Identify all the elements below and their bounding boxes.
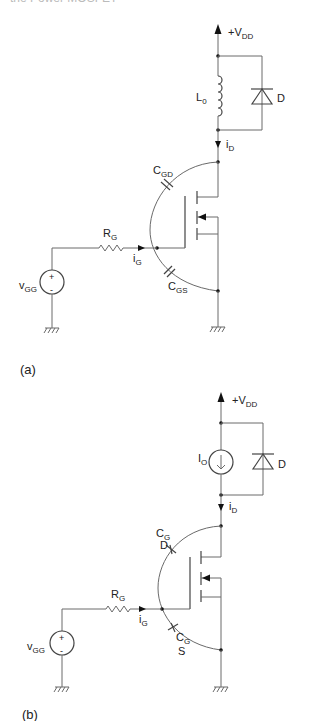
gate-resistor-label: RG [111, 588, 125, 603]
svg-text:+: + [59, 633, 64, 643]
diode-label: D [278, 458, 286, 470]
figure-a: +VDD L0 D iD [19, 24, 285, 377]
gate-current-arrow-icon [138, 245, 145, 251]
figure-b: +VDD IO D iD [22, 392, 286, 721]
supply-label: +VDD [228, 26, 254, 41]
mosfet-icon [162, 526, 221, 650]
supply-vdd-arrow-icon [218, 392, 225, 423]
gate-resistor-label: RG [103, 227, 117, 242]
ground-icon [213, 687, 228, 692]
cap-gs-label: CGS [168, 280, 188, 295]
gate-source-label: vGG [27, 640, 45, 655]
inductor-label: L0 [196, 91, 207, 106]
supply-vdd-arrow-icon [215, 24, 222, 56]
ground-icon [210, 327, 225, 332]
inductor-icon [218, 56, 222, 130]
parasitic-capacitance-arc [150, 162, 218, 291]
svg-text:+: + [49, 272, 54, 282]
drain-current-arrow-icon [215, 141, 221, 148]
cap-gs-label-line2: S [178, 645, 185, 657]
ground-icon [54, 687, 69, 692]
current-source-label: IO [198, 452, 207, 467]
svg-text:-: - [60, 646, 63, 656]
supply-label: +VDD [232, 394, 258, 409]
drain-current-arrow-icon [218, 504, 224, 511]
cap-gd-icon [161, 179, 173, 190]
drain-current-label: iD [226, 138, 234, 153]
gate-current-arrow-icon [139, 606, 146, 612]
gate-source-label: vGG [19, 279, 37, 294]
ground-icon [44, 328, 59, 333]
svg-text:-: - [50, 285, 53, 295]
cap-gd-label-line2: D [160, 539, 168, 551]
figure-b-caption: (b) [22, 707, 38, 721]
cap-gs-label: CG [176, 631, 190, 646]
drain-current-label: iD [229, 500, 237, 515]
diode-label: D [277, 92, 285, 104]
cap-gd-label: CGD [153, 164, 173, 179]
gate-current-label: iG [133, 252, 142, 267]
voltage-source-icon: + - [50, 631, 74, 656]
gate-resistor-icon [106, 606, 130, 612]
gate-resistor-icon [99, 245, 123, 251]
current-source-icon [209, 450, 233, 474]
voltage-source-icon: + - [40, 270, 64, 295]
circuit-diagrams: +VDD L0 D iD [0, 0, 310, 721]
gate-current-label: iG [139, 613, 148, 628]
figure-a-caption: (a) [20, 362, 36, 377]
